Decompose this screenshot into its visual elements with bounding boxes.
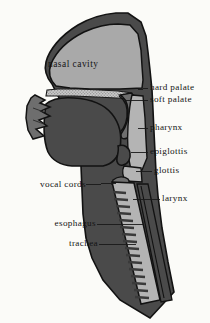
label-epiglottis: epiglottis xyxy=(150,147,188,156)
pharynx-region xyxy=(128,95,147,170)
pharynx-airway xyxy=(128,95,147,170)
label-pharynx: pharynx xyxy=(150,123,183,132)
label-larynx: larynx xyxy=(162,194,188,203)
label-vocal-cords: vocal cords xyxy=(20,180,86,189)
label-soft-palate: soft palate xyxy=(150,95,192,104)
vocal-tract-diagram xyxy=(0,0,210,323)
epiglottis-flap xyxy=(117,145,130,165)
label-esophagus: esophagus xyxy=(30,219,96,228)
epiglottis xyxy=(117,145,130,165)
label-hard-palate: hard palate xyxy=(150,83,194,92)
label-glottis: glottis xyxy=(154,166,179,175)
label-nasal-cavity: nasal cavity xyxy=(48,60,99,69)
label-trachea: trachea xyxy=(40,239,98,248)
anatomy-figure: nasal cavity hard palate soft palate pha… xyxy=(0,0,210,323)
